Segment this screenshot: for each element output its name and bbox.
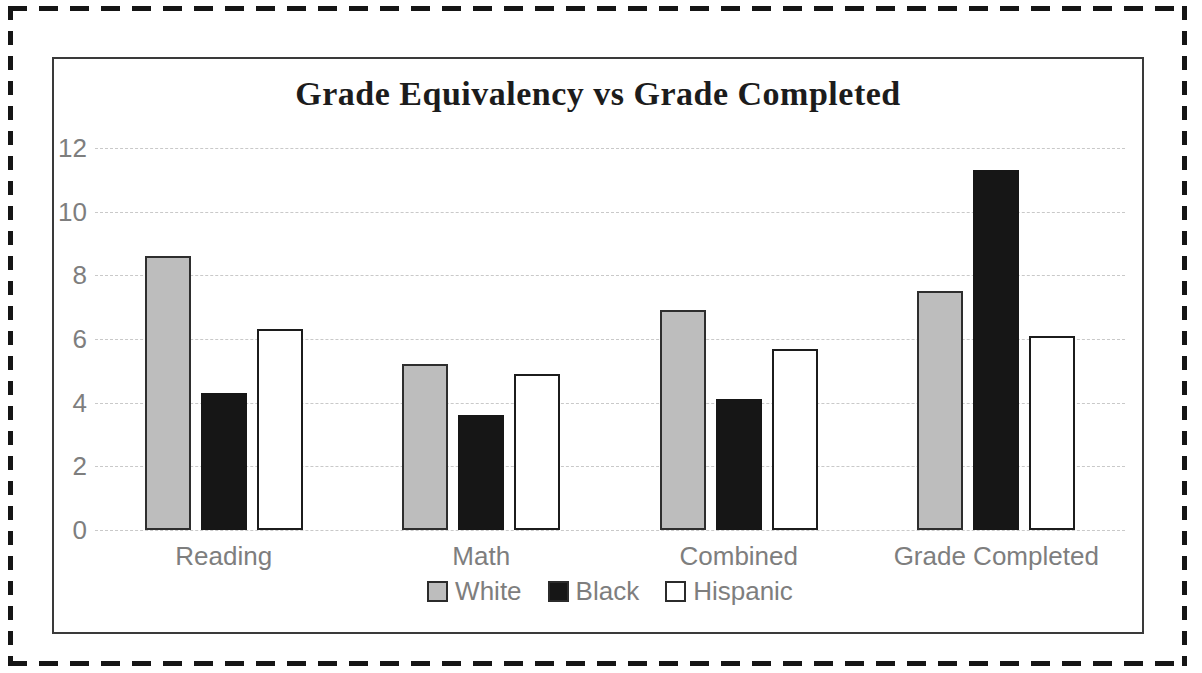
x-axis-category-labels: ReadingMathCombinedGrade Completed <box>95 541 1125 571</box>
legend-swatch-hispanic-icon <box>665 581 686 602</box>
bar-group-reading <box>145 256 303 530</box>
y-axis-tick-labels: 024681012 <box>54 148 90 530</box>
y-axis-tick-label-8: 8 <box>73 261 87 289</box>
bar-hispanic-combined <box>772 349 818 530</box>
bar-hispanic-grade-completed <box>1029 336 1075 530</box>
y-axis-tick-label-0: 0 <box>73 516 87 544</box>
bar-white-reading <box>145 256 191 530</box>
gridline-y-0 <box>95 530 1125 531</box>
bar-hispanic-reading <box>257 329 303 530</box>
legend-label-white: White <box>455 576 521 607</box>
x-axis-category-label-math: Math <box>452 541 510 572</box>
bar-black-grade-completed <box>973 170 1019 530</box>
bar-group-math <box>402 364 560 530</box>
chart-title: Grade Equivalency vs Grade Completed <box>54 75 1142 113</box>
bar-black-reading <box>201 393 247 530</box>
legend-label-black: Black <box>576 576 640 607</box>
x-axis-category-label-grade-completed: Grade Completed <box>894 541 1099 572</box>
bar-group-grade-completed <box>917 170 1075 530</box>
legend-swatch-white-icon <box>427 581 448 602</box>
bar-black-math <box>458 415 504 530</box>
y-axis-tick-label-6: 6 <box>73 325 87 353</box>
bar-black-combined <box>716 399 762 530</box>
y-axis-tick-label-4: 4 <box>73 389 87 417</box>
bar-hispanic-math <box>514 374 560 530</box>
legend-swatch-black-icon <box>548 581 569 602</box>
bar-white-math <box>402 364 448 530</box>
plot-area <box>95 148 1125 530</box>
legend-item-black: Black <box>548 576 640 607</box>
bar-group-combined <box>660 310 818 530</box>
gridline-y-12 <box>95 148 1125 149</box>
legend: WhiteBlackHispanic <box>95 576 1125 607</box>
y-axis-tick-label-10: 10 <box>58 198 87 226</box>
chart-container: Grade Equivalency vs Grade Completed 024… <box>52 57 1144 634</box>
bar-white-grade-completed <box>917 291 963 530</box>
legend-item-white: White <box>427 576 521 607</box>
x-axis-category-label-combined: Combined <box>679 541 798 572</box>
x-axis-category-label-reading: Reading <box>175 541 272 572</box>
legend-item-hispanic: Hispanic <box>665 576 793 607</box>
y-axis-tick-label-2: 2 <box>73 452 87 480</box>
bar-white-combined <box>660 310 706 530</box>
y-axis-tick-label-12: 12 <box>58 134 87 162</box>
legend-label-hispanic: Hispanic <box>693 576 793 607</box>
